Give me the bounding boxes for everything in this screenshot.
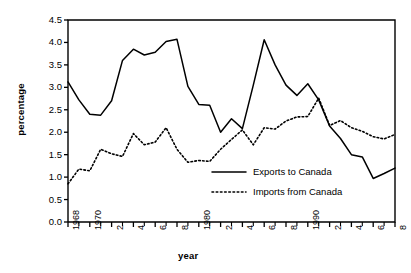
legend-label-imports: Imports from Canada — [253, 187, 342, 197]
legend-line-samples — [212, 172, 246, 192]
legend-label-exports: Exports to Canada — [253, 167, 332, 177]
chart-container: percentage year 4.54.03.53.02.52.01.51.0… — [0, 0, 411, 273]
plot-area — [0, 0, 411, 273]
data-series-group — [68, 39, 395, 184]
axis-frame — [68, 20, 395, 222]
